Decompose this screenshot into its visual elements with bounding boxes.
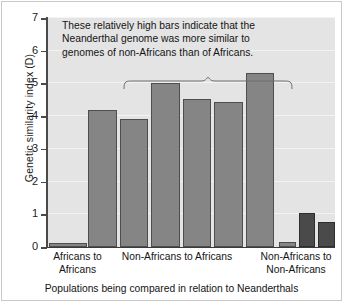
annotation-callout-text: These relatively high bars indicate that… xyxy=(62,19,328,59)
group-label-line: Non-Africans xyxy=(250,264,342,277)
y-tick-6 xyxy=(41,51,47,53)
bar xyxy=(88,110,117,247)
y-tick-2 xyxy=(41,182,47,184)
bar xyxy=(299,213,316,247)
annotation-line-2: Neanderthal genome was more similar to xyxy=(62,32,328,45)
bar xyxy=(214,102,243,247)
bar xyxy=(183,99,212,247)
group-label-2: Non-Africans to Africans xyxy=(82,251,272,264)
y-tick-0 xyxy=(41,247,47,249)
group-label-line: Non-Africans to xyxy=(250,251,342,264)
y-tick-7 xyxy=(41,18,47,20)
y-tick-label-3: 3 xyxy=(0,142,38,154)
bar xyxy=(120,119,149,247)
group-label-line: Africans xyxy=(40,264,115,277)
annotation-line-3: genomes of non-Africans than of Africans… xyxy=(62,46,328,59)
bar xyxy=(246,73,275,247)
group-brace-icon xyxy=(123,76,293,90)
group-label-3: Non-Africans toNon-Africans xyxy=(250,251,342,276)
y-tick-label-6: 6 xyxy=(0,44,38,56)
y-tick-label-4: 4 xyxy=(0,109,38,121)
chart-figure: Genetic similarity index (D) 01234567 Th… xyxy=(0,0,343,302)
y-tick-label-5: 5 xyxy=(0,76,38,88)
y-tick-5 xyxy=(41,83,47,85)
y-tick-1 xyxy=(41,214,47,216)
y-tick-label-1: 1 xyxy=(0,207,38,219)
group-label-line: Non-Africans to Africans xyxy=(82,251,272,264)
y-tick-label-2: 2 xyxy=(0,175,38,187)
bar xyxy=(151,83,180,247)
y-tick-label-7: 7 xyxy=(0,11,38,23)
bar xyxy=(318,222,335,247)
gridline-7 xyxy=(47,17,335,18)
x-axis-line xyxy=(46,247,335,249)
x-axis-title: Populations being compared in relation t… xyxy=(0,283,343,294)
annotation-line-1: These relatively high bars indicate that… xyxy=(62,19,328,32)
y-tick-4 xyxy=(41,116,47,118)
y-tick-3 xyxy=(41,149,47,151)
y-tick-label-0: 0 xyxy=(0,240,38,252)
